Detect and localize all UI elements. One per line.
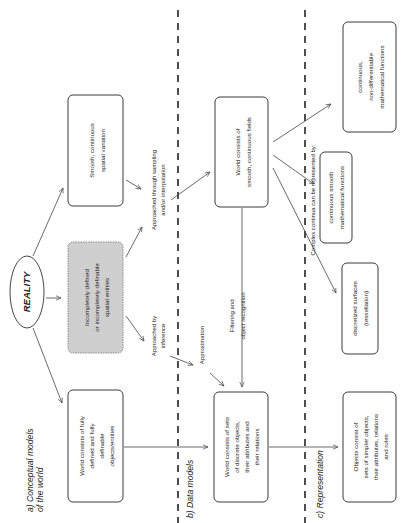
arrow-fields-to-non-differentiable — [273, 104, 331, 142]
svg-text:object recognition: object recognition — [240, 292, 246, 339]
svg-text:defined and fully: defined and fully — [88, 423, 95, 469]
svg-text:inference: inference — [160, 323, 166, 348]
svg-text:and rules: and rules — [382, 434, 389, 459]
svg-text:Approximation: Approximation — [199, 326, 205, 364]
svg-text:World consists of sets: World consists of sets — [223, 417, 230, 477]
section-label-c: c) Representation — [315, 450, 325, 518]
box-non-differentiable: continuous, non-differentiable mathemati… — [343, 22, 396, 132]
svg-text:REALITY: REALITY — [21, 270, 32, 312]
svg-text:smooth, continuous fields: smooth, continuous fields — [245, 117, 252, 187]
section-label-a: a) Conceptual models of the world — [25, 428, 45, 512]
svg-text:and/or interpolation: and/or interpolation — [160, 164, 166, 215]
box-fully-defined: World consists of fully defined and full… — [68, 390, 123, 502]
edge-label-complex-continua: Complex continua can be represented by: — [310, 144, 316, 255]
edge-label-sampling: Approached through sampling and/or inter… — [151, 150, 166, 230]
box-smooth-functions: continuous smooth mathematical functions — [320, 152, 352, 243]
arrow-sampling-to-fields — [171, 172, 210, 200]
arrow-reality-to-smooth — [33, 188, 63, 256]
box-smooth-variation: Smooth, continuous spatial variation — [68, 95, 123, 206]
svg-text:of discrete objects,: of discrete objects, — [233, 421, 240, 473]
box-discretized-surfaces: discretized surfaces (tessellation) — [342, 263, 378, 354]
arrow-smooth-to-sampling — [126, 180, 141, 189]
svg-text:Smooth, continuous: Smooth, continuous — [88, 123, 95, 178]
svg-text:Complex continua can be repres: Complex continua can be represented by: — [310, 144, 316, 255]
svg-text:Incompletely defined: Incompletely defined — [83, 269, 90, 326]
edge-label-approximation: Approximation — [199, 326, 205, 364]
svg-text:Approached by: Approached by — [151, 316, 157, 356]
section-label-b: b) Data models — [185, 459, 195, 518]
svg-text:World consists of fully: World consists of fully — [78, 415, 85, 476]
svg-text:continuous smooth: continuous smooth — [327, 171, 334, 223]
arrow-incomplete-to-inference — [126, 316, 144, 341]
svg-text:spatial variation: spatial variation — [99, 128, 106, 172]
svg-text:sets of simpler objects,: sets of simpler objects, — [362, 415, 369, 478]
svg-text:definable: definable — [98, 433, 105, 459]
svg-text:c) Representation: c) Representation — [315, 450, 325, 518]
svg-text:non-differentiable: non-differentiable — [367, 53, 374, 101]
arrow-inference-to-approximation — [170, 356, 193, 365]
box-simpler-objects: Objects consist of sets of simpler objec… — [343, 392, 396, 502]
svg-text:or incompletely definable: or incompletely definable — [93, 263, 100, 332]
arrow-approximation-to-discrete — [210, 373, 224, 386]
svg-text:b) Data models: b) Data models — [185, 459, 195, 518]
svg-text:spatial entities: spatial entities — [103, 278, 110, 317]
svg-text:World consists of: World consists of — [234, 128, 241, 175]
svg-text:mathematical functions: mathematical functions — [378, 45, 385, 108]
edge-label-filtering: Filtering and object recognition — [229, 292, 246, 339]
svg-text:Objects consist of: Objects consist of — [352, 422, 359, 471]
svg-text:a) Conceptual models: a) Conceptual models — [25, 428, 35, 512]
svg-text:of the world: of the world — [35, 467, 45, 512]
svg-text:Filtering and: Filtering and — [229, 299, 235, 332]
edge-label-inference: Approached by inference — [151, 316, 166, 356]
diagram-canvas: a) Conceptual models of the world b) Dat… — [0, 0, 414, 523]
arrow-reality-to-fully-defined — [33, 328, 62, 403]
svg-text:continuous,: continuous, — [356, 61, 363, 93]
reality-node: REALITY — [10, 256, 44, 328]
svg-text:Approached through sampling: Approached through sampling — [151, 150, 157, 230]
svg-text:their attributes, relations: their attributes, relations — [372, 414, 379, 480]
svg-text:their attributes and: their attributes and — [243, 421, 250, 473]
svg-text:mathematical functions: mathematical functions — [338, 166, 345, 229]
svg-text:(tessellation): (tessellation) — [362, 291, 369, 326]
svg-text:their relations: their relations — [253, 428, 260, 465]
svg-text:objects/entities: objects/entities — [108, 426, 115, 467]
svg-text:discretized surfaces: discretized surfaces — [351, 281, 358, 336]
arrow-incomplete-to-sampling — [126, 227, 142, 257]
box-discrete-objects: World consists of sets of discrete objec… — [214, 392, 268, 502]
box-incompletely-defined: Incompletely defined or incompletely def… — [68, 242, 123, 353]
box-continuous-fields: World consists of smooth, continuous fie… — [215, 97, 268, 207]
